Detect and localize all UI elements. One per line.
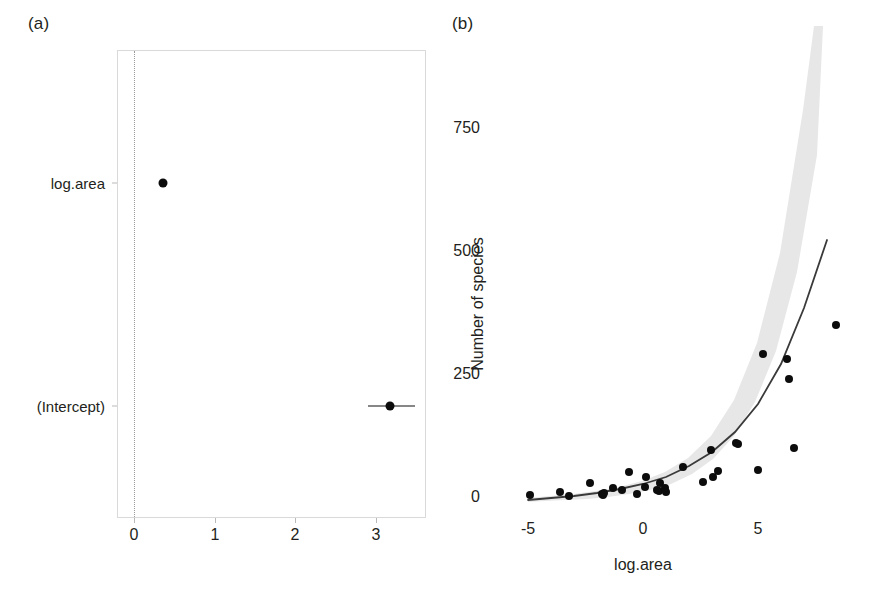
panel-a-xticklabel-3: 3 [372,526,381,544]
panel-b-data-point [609,484,617,492]
panel-a-estimate-point-intercept [386,402,395,411]
panel-b-data-point [641,483,649,491]
panel-b-data-point [790,444,798,452]
panel-a-xticklabel-0: 0 [130,526,139,544]
panel-b-plot-area: 750 500 250 0 -5 0 5 Number of species l… [440,0,879,600]
panel-a-ylabel-intercept: (Intercept) [0,398,105,415]
panel-b-data-point [633,490,641,498]
panel-a-xtick-1 [215,518,216,523]
panel-b-data-point [526,491,534,499]
panel-b-yticklabel-0: 0 [430,488,480,506]
panel-a-plot-frame [117,50,426,518]
panel-b-data-point [556,488,564,496]
panel-a-xtick-3 [376,518,377,523]
panel-b-data-point [662,488,670,496]
panel-b-data-point [707,446,715,454]
panel-b-xticklabel-5: 5 [754,520,763,538]
panel-b-data-point [714,467,722,475]
panel-b-data-point [618,486,626,494]
panel-b-data-point [754,466,762,474]
panel-b-curve-svg [440,0,879,600]
panel-b-data-point [783,355,791,363]
panel-b-confidence-band [528,26,823,502]
panel-b-xaxis-title: log.area [614,556,672,574]
panel-b-data-point [759,350,767,358]
panel-a-xticklabel-1: 1 [211,526,220,544]
panel-a-xtick-2 [295,518,296,523]
panel-a-ytick-intercept [112,406,117,407]
panel-b-data-point [642,473,650,481]
panel-a-xtick-0 [134,518,135,523]
panel-b-data-point [565,492,573,500]
panel-b-yaxis-title: Number of species [469,204,487,404]
panel-b-scatter-plot: (b) 750 500 250 0 -5 0 5 Number of speci… [440,0,879,600]
panel-b-data-point [586,479,594,487]
panel-b-xticklabel-0: 0 [639,520,648,538]
panel-b-data-point [785,375,793,383]
panel-a-estimate-point-log-area [159,179,168,188]
panel-a-xticklabel-2: 2 [291,526,300,544]
panel-b-yticklabel-750: 750 [430,119,480,137]
panel-a-zero-reference-line [134,51,135,517]
panel-b-data-point [734,440,742,448]
panel-b-data-point [699,478,707,486]
panel-b-xticklabel-minus5: -5 [521,520,535,538]
panel-a-ylabel-log-area: log.area [0,175,105,192]
panel-b-data-point [600,489,608,497]
panel-a-label: (a) [28,14,49,34]
figure-container: (a) log.area (Intercept) 0 1 2 3 (b) [0,0,879,600]
panel-a-coefficient-plot: (a) log.area (Intercept) 0 1 2 3 [0,0,440,600]
panel-a-ytick-log-area [112,183,117,184]
panel-b-data-point [625,468,633,476]
panel-b-data-point [679,463,687,471]
panel-b-data-point [832,321,840,329]
